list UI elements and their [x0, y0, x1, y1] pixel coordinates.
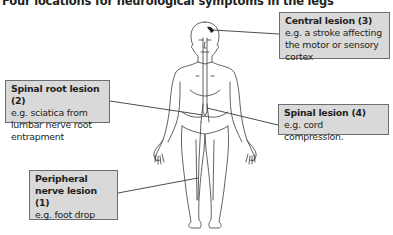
figure-chest	[190, 76, 220, 96]
central-lesion-marker	[207, 27, 214, 33]
peripheral-nerve-lesion-box: Peripheral nerve lesion (1) e.g. foot dr…	[29, 170, 118, 220]
spinal-root-lesion-heading: Spinal root lesion (2)	[11, 83, 104, 107]
central-lesion-example: e.g. a stroke affecting the motor or sen…	[285, 27, 384, 63]
spinal-root-lesion-example: e.g. sciatica from lumbar nerve root ent…	[11, 107, 104, 143]
peripheral-nerve-lesion-heading: Peripheral nerve lesion (1)	[35, 173, 112, 209]
spinal-root-lesion-box: Spinal root lesion (2) e.g. sciatica fro…	[5, 80, 110, 123]
figure-legs	[181, 126, 228, 228]
leader-line-central	[213, 30, 279, 34]
spinal-cord	[203, 38, 207, 116]
figure-torso	[155, 62, 255, 161]
figure-left-hand	[154, 140, 164, 164]
leader-line-spinal-root	[110, 101, 203, 115]
central-lesion-box: Central lesion (3) e.g. a stroke affecti…	[279, 12, 390, 59]
peripheral-nerve-lesion-example: e.g. foot drop	[35, 209, 112, 221]
spinal-lesion-heading: Spinal lesion (4)	[284, 107, 383, 119]
central-lesion-heading: Central lesion (3)	[285, 15, 384, 27]
figure-inner-arms	[168, 82, 242, 142]
figure-face	[199, 40, 211, 52]
spinal-lesion-example: e.g. cord compression.	[284, 119, 383, 143]
figure-right-hand	[246, 140, 256, 164]
spinal-root	[201, 104, 209, 122]
spinal-lesion-box: Spinal lesion (4) e.g. cord compression.	[278, 104, 389, 135]
